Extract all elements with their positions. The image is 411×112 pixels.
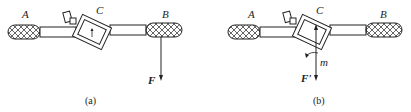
caption-b: (b): [313, 95, 325, 107]
clamp-nut: [70, 18, 76, 24]
shaft-left: [40, 27, 76, 37]
figure-b: A C B m F' (b): [228, 4, 402, 107]
force-f-arrowhead-icon: [159, 75, 163, 81]
label-c: C: [316, 4, 324, 16]
label-f-prime: F': [300, 72, 311, 84]
handle-b: [366, 23, 402, 37]
shaft-right: [330, 25, 366, 35]
label-a: A: [247, 8, 255, 20]
label-b: B: [162, 8, 169, 20]
label-a: A: [21, 8, 29, 20]
force-f-prime-arrowhead-icon: [314, 75, 318, 81]
caption-a: (a): [85, 95, 96, 107]
shaft-right: [110, 25, 146, 35]
diagram-canvas: A C B F (a) A C B m F' (b): [0, 0, 411, 112]
figure-a: A C B F (a): [8, 4, 182, 107]
label-b: B: [380, 8, 387, 20]
handle-a: [8, 25, 40, 39]
label-c: C: [96, 4, 104, 16]
handle-a: [228, 25, 260, 39]
label-f: F: [147, 74, 156, 86]
label-m: m: [320, 56, 328, 68]
clamp-nut: [290, 18, 296, 24]
shaft-left: [260, 27, 296, 37]
handle-b: [146, 23, 182, 37]
